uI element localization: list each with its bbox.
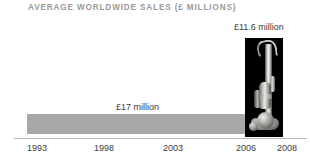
page-title: AVERAGE WORLDWIDE SALES (£ MILLIONS) bbox=[28, 3, 236, 12]
sales-infographic-chart: AVERAGE WORLDWIDE SALES (£ MILLIONS) £17… bbox=[0, 0, 310, 166]
x-axis-tick-2003: 2003 bbox=[163, 143, 183, 153]
bar-sales-1993-2006 bbox=[27, 114, 246, 134]
vacuum-front-wheel-icon bbox=[249, 122, 258, 131]
vacuum-ball-wheel-icon bbox=[257, 112, 274, 129]
plot-area: £17 million £11.6 million bbox=[0, 16, 310, 140]
x-axis-tick-2006: 2006 bbox=[236, 143, 256, 153]
x-axis-tick-labels: 19931998200320062008 bbox=[0, 143, 310, 159]
product-value-label: £11.6 million bbox=[234, 22, 284, 32]
bar-value-label: £17 million bbox=[116, 102, 159, 112]
x-axis-tick-2008: 2008 bbox=[277, 143, 297, 153]
vacuum-bin-collar-icon bbox=[258, 94, 272, 99]
x-axis-line bbox=[14, 138, 307, 139]
x-axis-tick-1993: 1993 bbox=[27, 143, 47, 153]
x-axis-tick-1998: 1998 bbox=[94, 143, 114, 153]
product-photo-panel bbox=[245, 38, 283, 137]
